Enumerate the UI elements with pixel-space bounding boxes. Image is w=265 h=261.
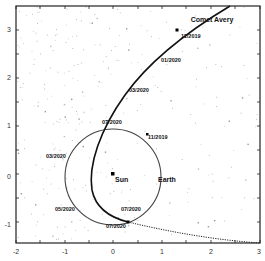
date-label: 07/2020 [121, 206, 141, 212]
y-tick: -1 [5, 221, 11, 228]
date-label: 05/2020 [55, 206, 75, 212]
y-tick: 0 [7, 173, 11, 180]
x-tick: -2 [13, 248, 19, 255]
comet-marker-2019 [176, 29, 179, 32]
comet-path [91, 6, 230, 222]
x-tick: 0 [111, 248, 115, 255]
date-label: 07/2020 [106, 223, 126, 229]
y-tick: 3 [7, 26, 11, 33]
plot-svg: -2 -1 0 1 2 3 3 2 1 0 -1 Comet Avery 11/… [0, 0, 265, 261]
earth-orbit [65, 129, 161, 225]
y-tick: 2 [7, 74, 11, 81]
sun-label: Sun [115, 176, 128, 183]
y-tick: 1 [7, 122, 11, 129]
earth-label: Earth [158, 176, 176, 183]
x-tick: 3 [257, 248, 261, 255]
date-label: 11/2019 [148, 134, 168, 140]
date-label: 03/2020 [129, 87, 149, 93]
date-label: 01/2020 [161, 57, 181, 63]
x-tick: 2 [209, 248, 213, 255]
comet-future-path [128, 222, 260, 243]
comet-name-label: Comet Avery [191, 16, 234, 24]
sun-marker [111, 172, 115, 176]
date-label: 07/2020 [102, 119, 122, 125]
date-label: 11/2019 [181, 33, 201, 39]
date-label: 03/2020 [46, 153, 66, 159]
x-tick: -1 [62, 248, 68, 255]
intersection-marker [127, 221, 130, 224]
x-tick: 1 [160, 248, 164, 255]
comet-orbit-chart: -2 -1 0 1 2 3 3 2 1 0 -1 Comet Avery 11/… [0, 0, 265, 261]
